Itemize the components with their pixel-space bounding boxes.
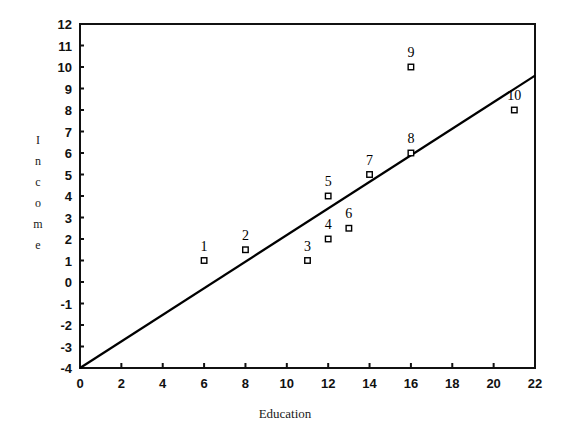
y-tick-label--1: -1	[60, 297, 72, 312]
data-label-3: 3	[304, 239, 311, 254]
data-marker-7	[367, 172, 373, 178]
y-axis-title-letter-4: o	[35, 196, 41, 210]
y-axis-title-letter-6: e	[35, 238, 40, 252]
x-axis-title: Education	[259, 406, 312, 421]
y-tick-label-10: 10	[58, 60, 72, 75]
y-tick-label-12: 12	[58, 17, 72, 32]
data-label-10: 10	[507, 88, 521, 103]
y-tick-label-1: 1	[65, 254, 72, 269]
y-tick-label-5: 5	[65, 168, 72, 183]
y-tick-label-6: 6	[65, 146, 72, 161]
data-label-4: 4	[325, 217, 332, 232]
y-tick-label-0: 0	[65, 275, 72, 290]
x-tick-label-6: 6	[200, 376, 207, 391]
data-marker-4	[325, 236, 331, 242]
data-marker-9	[408, 64, 414, 70]
data-marker-6	[346, 226, 352, 232]
y-tick-label-2: 2	[65, 232, 72, 247]
data-marker-5	[325, 193, 331, 199]
plot-background	[0, 0, 572, 440]
x-tick-label-10: 10	[280, 376, 294, 391]
data-label-8: 8	[407, 131, 414, 146]
data-label-2: 2	[242, 228, 249, 243]
x-tick-label-8: 8	[242, 376, 249, 391]
y-tick-label-8: 8	[65, 103, 72, 118]
x-tick-label-18: 18	[445, 376, 459, 391]
y-tick-label-9: 9	[65, 82, 72, 97]
data-label-9: 9	[407, 45, 414, 60]
y-tick-label--3: -3	[60, 340, 72, 355]
data-marker-8	[408, 150, 414, 156]
y-tick-label-3: 3	[65, 211, 72, 226]
data-label-6: 6	[345, 206, 352, 221]
x-tick-label-16: 16	[404, 376, 418, 391]
data-marker-1	[201, 258, 207, 264]
data-label-5: 5	[325, 174, 332, 189]
y-axis-title-letter-3: c	[35, 175, 40, 189]
y-tick-label--4: -4	[60, 361, 72, 376]
scatter-plot-figure: -4-3-2-10123456789101112 024681012141618…	[0, 0, 572, 440]
x-tick-label-22: 22	[528, 376, 542, 391]
y-tick-label-4: 4	[65, 189, 73, 204]
y-axis-title-letter-1: I	[36, 133, 40, 147]
x-tick-label-12: 12	[321, 376, 335, 391]
data-marker-2	[243, 247, 249, 253]
y-tick-label-7: 7	[65, 125, 72, 140]
y-axis-title-letter-2: n	[35, 154, 41, 168]
data-marker-3	[305, 258, 311, 264]
x-tick-label-0: 0	[76, 376, 83, 391]
plot-canvas: -4-3-2-10123456789101112 024681012141618…	[0, 0, 572, 440]
data-label-1: 1	[201, 239, 208, 254]
data-label-7: 7	[366, 153, 373, 168]
x-tick-label-2: 2	[118, 376, 125, 391]
y-tick-label--2: -2	[60, 318, 72, 333]
x-tick-label-14: 14	[362, 376, 377, 391]
x-tick-label-4: 4	[159, 376, 167, 391]
y-tick-label-11: 11	[58, 39, 72, 54]
y-axis-title-letter-5: m	[33, 217, 43, 231]
data-marker-10	[512, 107, 518, 113]
x-tick-label-20: 20	[486, 376, 500, 391]
